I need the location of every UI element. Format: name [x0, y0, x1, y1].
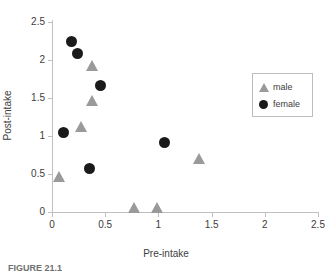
legend-label-female: female — [273, 100, 300, 109]
data-point-female — [72, 48, 83, 59]
data-point-male — [193, 153, 205, 164]
y-tick — [48, 98, 52, 99]
x-tick-label: 0 — [32, 220, 72, 230]
data-point-male — [53, 171, 65, 182]
data-point-female — [58, 127, 69, 138]
circle-icon — [258, 98, 270, 110]
legend-item-female: female — [258, 96, 300, 112]
y-tick-label: 2.5 — [5, 17, 45, 27]
y-tick — [48, 136, 52, 137]
y-axis-title: Post-intake — [2, 76, 13, 156]
data-point-male — [86, 95, 98, 106]
x-tick — [105, 213, 106, 217]
x-tick-label: 2 — [245, 220, 285, 230]
data-point-female — [95, 80, 106, 91]
x-tick — [318, 213, 319, 217]
data-point-female — [84, 163, 95, 174]
x-tick — [265, 213, 266, 217]
y-tick-label: 0 — [5, 207, 45, 217]
data-point-male — [151, 202, 163, 213]
x-axis-title: Pre-intake — [0, 248, 332, 259]
x-tick-label: 1.5 — [192, 220, 232, 230]
y-tick — [48, 174, 52, 175]
figure-caption: FIGURE 21.1 — [8, 263, 62, 271]
data-point-male — [128, 202, 140, 213]
y-axis-line — [52, 20, 53, 213]
figure-container: 00.511.522.5 00.511.522.5 Post-intake Pr… — [0, 0, 332, 271]
x-tick — [52, 213, 53, 217]
chart-legend: male female — [252, 73, 313, 117]
data-point-male — [86, 60, 98, 71]
data-point-male — [75, 121, 87, 132]
data-point-female — [66, 36, 77, 47]
x-tick — [158, 213, 159, 217]
x-tick-label: 0.5 — [85, 220, 125, 230]
triangle-icon — [258, 81, 270, 93]
legend-label-male: male — [273, 83, 293, 92]
x-axis-line — [52, 212, 319, 213]
x-tick-label: 2.5 — [298, 220, 332, 230]
y-tick — [48, 22, 52, 23]
y-tick-label: 2 — [5, 55, 45, 65]
y-tick — [48, 60, 52, 61]
data-point-female — [159, 137, 170, 148]
y-tick-label: 0.5 — [5, 169, 45, 179]
legend-item-male: male — [258, 79, 293, 95]
x-tick-label: 1 — [138, 220, 178, 230]
x-tick — [212, 213, 213, 217]
